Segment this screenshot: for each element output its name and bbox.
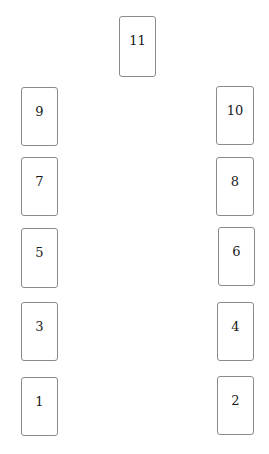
card-number: 6	[219, 245, 254, 259]
card-number: 2	[218, 394, 253, 408]
card-number: 11	[120, 34, 155, 48]
card-number: 7	[22, 175, 57, 189]
card-9[interactable]: 9	[21, 87, 58, 146]
card-11[interactable]: 11	[119, 16, 156, 77]
card-number: 10	[217, 104, 253, 118]
card-10[interactable]: 10	[216, 86, 254, 145]
card-number: 9	[22, 105, 57, 119]
card-number: 8	[217, 175, 253, 189]
card-number: 3	[22, 320, 57, 334]
card-1[interactable]: 1	[21, 377, 58, 436]
card-8[interactable]: 8	[216, 157, 254, 216]
card-number: 1	[22, 395, 57, 409]
card-4[interactable]: 4	[217, 302, 254, 361]
card-3[interactable]: 3	[21, 302, 58, 361]
card-number: 5	[22, 246, 57, 260]
card-7[interactable]: 7	[21, 157, 58, 216]
card-number: 4	[218, 320, 253, 334]
card-2[interactable]: 2	[217, 376, 254, 435]
card-5[interactable]: 5	[21, 228, 58, 288]
card-6[interactable]: 6	[218, 227, 255, 286]
